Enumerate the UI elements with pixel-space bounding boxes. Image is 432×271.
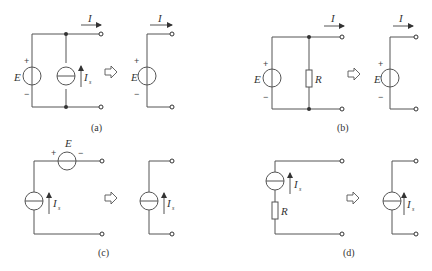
svg-text:E: E <box>373 73 381 85</box>
equivalence-arrow-icon <box>105 192 117 204</box>
svg-text:−: − <box>134 89 139 99</box>
minus-sign: − <box>24 89 29 99</box>
plus-sign: + <box>24 56 29 66</box>
equivalence-arrow-icon <box>105 66 117 78</box>
svg-text:s: s <box>299 186 302 192</box>
svg-text:R: R <box>280 205 288 217</box>
panel-d: I s R I s (d) <box>266 159 418 259</box>
svg-text:−: − <box>378 92 383 102</box>
caption-c: (c) <box>98 247 109 259</box>
resistor-icon <box>306 70 312 87</box>
svg-text:+: + <box>51 148 56 158</box>
svg-text:+: + <box>263 59 268 69</box>
svg-text:E: E <box>130 71 138 83</box>
panel-b: + − E R I + − E I (b) <box>253 12 418 134</box>
svg-text:s: s <box>412 206 415 212</box>
svg-text:E: E <box>64 137 72 149</box>
caption-b: (b) <box>337 122 349 134</box>
panel-c: + − E I s I s (c) <box>25 137 175 259</box>
terminal <box>99 105 103 109</box>
panel-a: + − E I s I + − E I (a) <box>13 12 174 134</box>
resistor-icon <box>272 202 278 219</box>
source-label-e: E <box>13 71 21 83</box>
terminal <box>99 32 103 36</box>
svg-text:I: I <box>157 12 163 24</box>
svg-text:+: + <box>134 56 139 66</box>
svg-text:I: I <box>330 12 336 24</box>
svg-text:s: s <box>172 205 175 211</box>
svg-text:s: s <box>89 79 92 85</box>
svg-text:s: s <box>58 205 61 211</box>
svg-text:I: I <box>398 12 404 24</box>
svg-text:−: − <box>263 92 268 102</box>
svg-text:−: − <box>78 148 83 158</box>
caption-a: (a) <box>91 122 102 134</box>
circuit-equivalence-figure: + − E I s I + − E I (a) + − E <box>0 0 432 271</box>
equivalence-arrow-icon <box>348 68 360 80</box>
svg-text:E: E <box>253 73 261 85</box>
svg-text:R: R <box>314 73 322 85</box>
svg-text:+: + <box>378 59 383 69</box>
equivalence-arrow-icon <box>347 192 359 204</box>
caption-d: (d) <box>343 247 355 259</box>
svg-text:I: I <box>87 12 93 24</box>
